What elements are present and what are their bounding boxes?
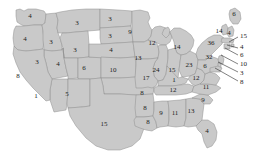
state-value-arkansas: 8 (143, 105, 147, 112)
state-value-florida: 4 (205, 128, 209, 135)
state-value-south-dakota: 3 (108, 33, 112, 40)
state-value-south-carolina: 9 (201, 97, 205, 104)
state-shape-ks (101, 57, 136, 78)
state-value-arizona: 1 (34, 93, 38, 100)
us-electoral-map: 4433333344610815158913121424152317881121… (0, 0, 253, 155)
state-shape-nm (67, 79, 90, 108)
state-value-north-dakota: 3 (108, 16, 112, 23)
state-value-kentucky: 1 (172, 77, 176, 84)
state-value-missouri: 17 (143, 75, 150, 82)
state-value-kansas: 10 (110, 67, 117, 74)
state-value-california: 8 (16, 73, 20, 80)
state-shape-wy (60, 31, 89, 58)
state-value-michigan: 14 (174, 44, 181, 51)
state-value-idaho: 3 (49, 39, 53, 46)
state-value-wyoming: 3 (73, 47, 77, 54)
state-value-ohio: 23 (186, 62, 193, 69)
state-value-mississippi: 9 (159, 110, 163, 117)
us-map-graphic (0, 0, 253, 155)
state-value-pennsylvania: 32 (206, 54, 213, 61)
state-value-new-hampshire: 4 (227, 30, 231, 37)
state-value-indiana: 15 (169, 67, 176, 74)
state-value-illinois: 24 (153, 67, 160, 74)
state-value-georgia: 13 (188, 108, 195, 115)
callout-value-massachusetts: 15 (240, 33, 247, 40)
state-value-north-carolina: 11 (203, 84, 210, 91)
state-value-colorado: 6 (82, 65, 86, 72)
state-value-new-york: 36 (208, 40, 215, 47)
state-shape-mn (132, 10, 152, 42)
callout-value-rhode-island: 4 (240, 44, 244, 51)
state-value-louisiana: 8 (146, 119, 150, 126)
state-value-oklahoma: 8 (140, 90, 144, 97)
state-value-nevada: 3 (35, 59, 39, 66)
state-value-minnesota: 9 (128, 29, 132, 36)
state-value-washington: 4 (28, 13, 32, 20)
callout-value-connecticut: 6 (240, 52, 244, 59)
callout-value-delaware: 3 (240, 70, 244, 77)
state-value-maine: 6 (232, 11, 236, 18)
state-shape-nd (100, 9, 132, 28)
state-value-new-mexico: 5 (65, 91, 69, 98)
state-value-nebraska: 4 (109, 47, 113, 54)
state-value-vermont-cluster: 14 (216, 28, 223, 35)
state-value-west-virginia: 12 (193, 75, 200, 82)
state-value-texas: 15 (101, 121, 108, 128)
state-value-wisconsin: 12 (149, 40, 156, 47)
state-value-iowa: 13 (135, 55, 142, 62)
callout-value-maryland: 8 (240, 79, 244, 86)
state-value-virginia: 6 (203, 63, 207, 70)
state-value-utah: 4 (56, 61, 60, 68)
state-shape-or (13, 25, 44, 51)
callout-value-new-jersey: 10 (240, 61, 247, 68)
state-value-oregon: 4 (23, 36, 27, 43)
state-value-montana: 3 (75, 20, 79, 27)
leader-line-connecticut (225, 48, 238, 55)
state-value-alabama: 11 (172, 110, 179, 117)
state-value-tennessee: 12 (170, 87, 177, 94)
